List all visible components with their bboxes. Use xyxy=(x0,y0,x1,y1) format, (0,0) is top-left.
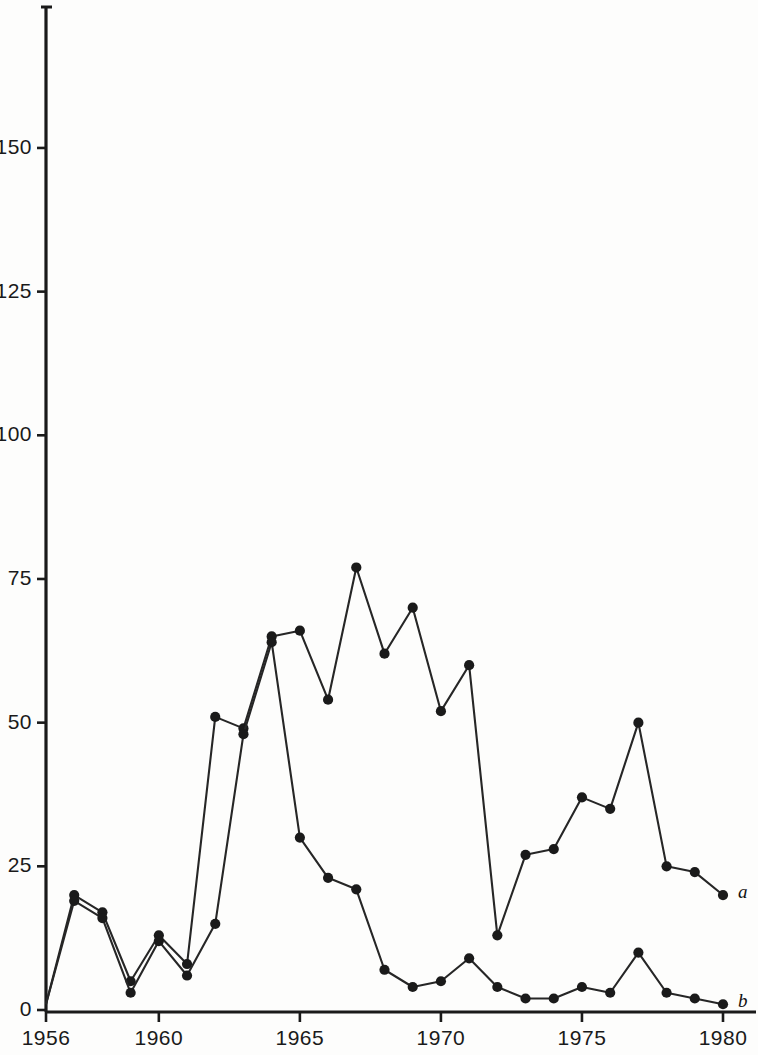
series-label-b: b xyxy=(738,990,748,1012)
data-point-b xyxy=(97,913,107,923)
data-point-b xyxy=(436,976,446,986)
data-point-a xyxy=(295,626,305,636)
x-axis-tick-label: 1970 xyxy=(401,1026,481,1050)
data-point-b xyxy=(238,729,248,739)
data-point-a xyxy=(577,792,587,802)
data-point-a xyxy=(379,649,389,659)
series-line-b xyxy=(46,642,723,1004)
data-point-b xyxy=(323,873,333,883)
data-point-a xyxy=(351,562,361,572)
data-point-b xyxy=(295,832,305,842)
x-axis-tick-label: 1980 xyxy=(683,1026,758,1050)
data-point-b xyxy=(492,982,502,992)
data-point-b xyxy=(690,993,700,1003)
chart-plot-area xyxy=(0,0,758,1055)
data-point-a xyxy=(520,850,530,860)
series-label-a: a xyxy=(738,881,748,903)
y-axis-tick-label: 150 xyxy=(0,135,32,159)
data-series-group xyxy=(46,562,728,1009)
line-chart: 0255075100125150 19561960196519701975198… xyxy=(0,0,758,1055)
data-point-b xyxy=(605,988,615,998)
y-axis-tick-label: 50 xyxy=(8,710,32,734)
data-point-b xyxy=(351,884,361,894)
data-point-a xyxy=(661,861,671,871)
y-axis-tick-label: 25 xyxy=(8,853,32,877)
data-point-b xyxy=(182,970,192,980)
data-point-b xyxy=(69,896,79,906)
axis-lines xyxy=(41,6,756,1012)
data-point-a xyxy=(492,930,502,940)
data-point-a xyxy=(323,695,333,705)
data-point-b xyxy=(210,919,220,929)
y-axis-tick-label: 100 xyxy=(0,422,32,446)
data-point-b xyxy=(408,982,418,992)
data-point-b xyxy=(577,982,587,992)
data-point-a xyxy=(633,718,643,728)
data-point-b xyxy=(464,953,474,963)
data-point-a xyxy=(210,712,220,722)
data-point-b xyxy=(718,999,728,1009)
data-point-a xyxy=(605,804,615,814)
x-axis-tick-label: 1956 xyxy=(6,1026,86,1050)
series-line-a xyxy=(46,567,723,1004)
data-point-b xyxy=(549,993,559,1003)
data-point-b xyxy=(267,637,277,647)
x-axis-tick-label: 1965 xyxy=(260,1026,340,1050)
data-point-b xyxy=(379,965,389,975)
data-point-a xyxy=(690,867,700,877)
data-point-a xyxy=(718,890,728,900)
data-point-b xyxy=(154,936,164,946)
data-point-a xyxy=(549,844,559,854)
data-point-b xyxy=(126,988,136,998)
y-axis-tick-label: 75 xyxy=(8,566,32,590)
data-point-b xyxy=(520,993,530,1003)
data-point-a xyxy=(436,706,446,716)
data-point-b xyxy=(661,988,671,998)
data-point-a xyxy=(408,603,418,613)
x-axis-tick-label: 1960 xyxy=(119,1026,199,1050)
x-axis-tick-label: 1975 xyxy=(542,1026,622,1050)
data-point-a xyxy=(464,660,474,670)
y-axis-tick-label: 0 xyxy=(20,997,32,1021)
data-point-b xyxy=(633,947,643,957)
y-axis-tick-label: 125 xyxy=(0,279,32,303)
